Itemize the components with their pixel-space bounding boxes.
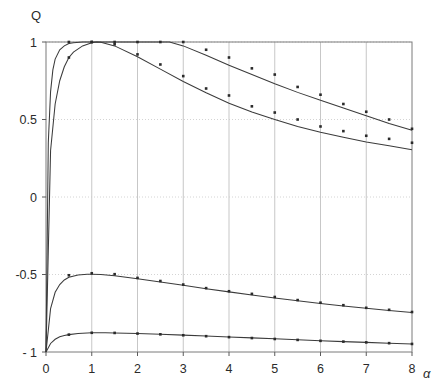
data-point [136, 53, 139, 56]
data-point [365, 110, 368, 113]
data-point [136, 332, 139, 335]
y-tick-label: -0.5 [15, 268, 37, 282]
data-point [251, 67, 254, 70]
gridlines-group [46, 42, 412, 352]
chart-figure: 012345678- 1-0.500.51 Q α [0, 0, 446, 388]
data-point [296, 299, 299, 302]
data-point [388, 118, 391, 121]
data-point [273, 296, 276, 299]
x-tick-label: 5 [271, 362, 278, 376]
data-point [388, 342, 391, 345]
data-point [365, 134, 368, 137]
data-point [136, 277, 139, 280]
data-point [228, 336, 231, 339]
data-point [342, 304, 345, 307]
data-point [159, 41, 162, 44]
data-point [228, 94, 231, 97]
data-point [365, 307, 368, 310]
data-point [319, 93, 322, 96]
data-point [182, 75, 185, 78]
data-point [251, 293, 254, 296]
data-point [205, 335, 208, 338]
data-point [68, 56, 71, 59]
data-point [319, 125, 322, 128]
data-point [388, 138, 391, 141]
data-point [68, 274, 71, 277]
data-point [90, 272, 93, 275]
y-tick-label: - 1 [22, 346, 37, 360]
data-point [113, 43, 116, 46]
data-point [205, 48, 208, 51]
tick-marks-group [42, 42, 412, 356]
data-point [411, 141, 414, 144]
data-point [319, 301, 322, 304]
data-point [68, 41, 71, 44]
data-point [182, 334, 185, 337]
data-point [68, 333, 71, 336]
data-point [228, 290, 231, 293]
data-point [342, 130, 345, 133]
y-axis-title: Q [31, 8, 41, 23]
x-tick-label: 6 [317, 362, 324, 376]
x-tick-label: 8 [409, 362, 416, 376]
x-axis-title: α [423, 366, 431, 381]
data-point [205, 287, 208, 290]
data-point [159, 333, 162, 336]
data-point [296, 118, 299, 121]
data-point [90, 41, 93, 44]
data-point [113, 332, 116, 335]
data-point [411, 128, 414, 131]
data-point [159, 63, 162, 66]
data-point [113, 41, 116, 44]
data-point [388, 309, 391, 312]
y-tick-label: 0 [30, 191, 37, 205]
data-point [296, 339, 299, 342]
x-tick-label: 3 [180, 362, 187, 376]
data-point [273, 73, 276, 76]
x-tick-label: 4 [226, 362, 233, 376]
data-point [251, 337, 254, 340]
x-tick-label: 2 [134, 362, 141, 376]
data-point [90, 331, 93, 334]
data-markers-group [68, 41, 414, 346]
data-point [251, 105, 254, 108]
data-point [319, 340, 322, 343]
data-point [411, 343, 414, 346]
x-tick-label: 1 [88, 362, 95, 376]
data-point [159, 280, 162, 283]
data-point [342, 340, 345, 343]
x-tick-label: 7 [363, 362, 370, 376]
data-point [273, 338, 276, 341]
data-point [365, 341, 368, 344]
x-tick-label: 0 [43, 362, 50, 376]
data-point [182, 283, 185, 286]
data-point [411, 311, 414, 314]
data-point [296, 86, 299, 89]
data-point [136, 41, 139, 44]
data-point [205, 87, 208, 90]
y-tick-label: 0.5 [20, 113, 37, 127]
y-tick-label: 1 [30, 36, 37, 50]
tick-labels-group: 012345678- 1-0.500.51 [15, 36, 415, 377]
data-point [228, 56, 231, 59]
data-point [113, 273, 116, 276]
data-point [273, 111, 276, 114]
data-point [342, 103, 345, 106]
data-point [182, 41, 185, 44]
